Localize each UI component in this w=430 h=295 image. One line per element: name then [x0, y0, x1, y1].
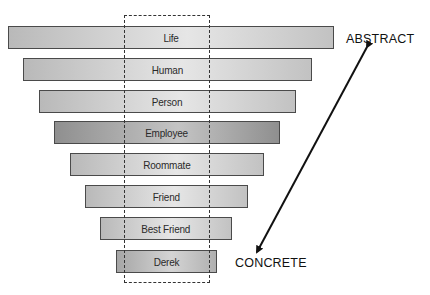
- concrete-label: CONCRETE: [235, 256, 307, 270]
- abstract-label: ABSTRACT: [346, 32, 414, 46]
